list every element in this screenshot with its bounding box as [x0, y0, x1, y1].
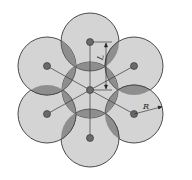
node-upper-left	[44, 63, 51, 70]
node-upper-right	[131, 63, 138, 70]
label-R: R	[142, 102, 149, 111]
diagram-canvas: L R	[0, 0, 192, 180]
node-top	[87, 39, 94, 46]
hexagonal-circles-diagram: L R	[0, 0, 192, 180]
node-center	[87, 87, 94, 94]
node-bottom	[87, 135, 94, 142]
node-lower-left	[44, 111, 51, 118]
